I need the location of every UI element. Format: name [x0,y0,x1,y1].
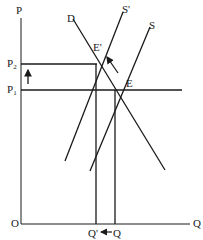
supply-shifted-label: S' [122,4,130,15]
origin-label: O [11,218,19,229]
p2-label: P2 [7,58,17,71]
supply-demand-diagram [0,0,203,240]
equilibrium-original-label: E [126,78,133,89]
demand-curve [73,19,165,170]
x-axis-label: Q [193,218,201,229]
demand-label: D [67,13,75,24]
p1-label: P1 [7,84,17,97]
supply-label: S [149,20,155,31]
y-axis-label: P [16,5,22,16]
q-label: Q [113,228,121,239]
q-prime-label: Q' [88,228,98,239]
shift-arrow-icon [107,57,118,73]
equilibrium-new-label: E' [93,42,102,53]
